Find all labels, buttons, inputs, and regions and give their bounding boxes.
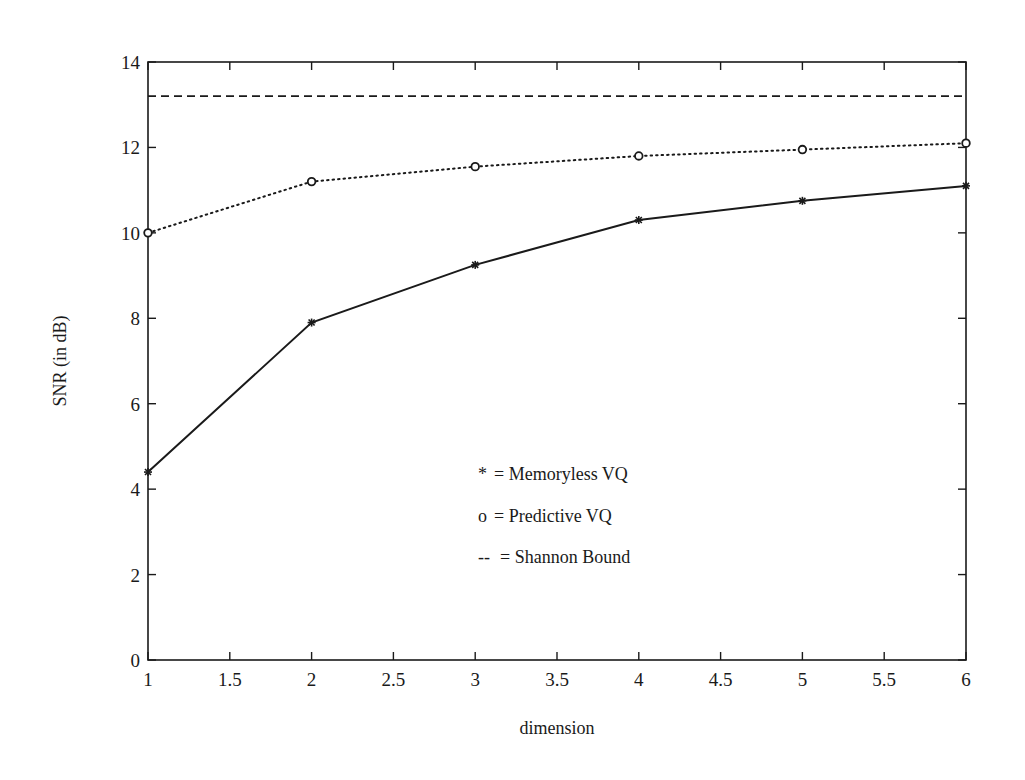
y-tick-label: 4 (131, 479, 141, 500)
x-tick-label: 4.5 (709, 669, 733, 690)
y-tick-label: 14 (121, 52, 141, 73)
x-tick-label: 6 (961, 669, 971, 690)
legend-label-predictive: = Predictive VQ (494, 506, 612, 526)
x-tick-label: 3 (470, 669, 480, 690)
memoryless-vq-line (148, 186, 966, 472)
x-axis-title: dimension (520, 718, 595, 738)
circle-marker (471, 163, 479, 171)
legend-symbol-shannon: -- (478, 547, 490, 567)
x-tick-label: 4 (634, 669, 644, 690)
star-marker (798, 197, 806, 205)
x-tick-label: 5.5 (872, 669, 896, 690)
star-marker (635, 216, 643, 224)
x-tick-label: 2.5 (382, 669, 406, 690)
legend-label-shannon: = Shannon Bound (500, 547, 630, 567)
circle-marker (144, 229, 152, 237)
series-layer (144, 96, 970, 476)
x-axis-ticks: 11.522.533.544.555.56 (143, 62, 971, 690)
x-tick-label: 1.5 (218, 669, 242, 690)
snr-vs-dimension-chart: 11.522.533.544.555.56 02468101214 dimens… (0, 0, 1025, 780)
circle-marker (799, 146, 807, 154)
y-axis-ticks: 02468101214 (121, 52, 966, 671)
star-marker (308, 319, 316, 327)
y-tick-label: 0 (131, 650, 141, 671)
y-tick-label: 12 (121, 137, 140, 158)
x-tick-label: 2 (307, 669, 317, 690)
legend-label-memoryless: = Memoryless VQ (494, 464, 628, 484)
legend: * = Memoryless VQ o = Predictive VQ -- =… (478, 464, 630, 567)
star-marker (144, 468, 152, 476)
x-tick-label: 5 (798, 669, 808, 690)
y-axis-title: SNR (in dB) (50, 315, 71, 406)
y-tick-label: 8 (131, 308, 141, 329)
star-marker (471, 261, 479, 269)
legend-symbol-memoryless: * (478, 464, 487, 484)
y-tick-label: 10 (121, 223, 140, 244)
y-tick-label: 2 (131, 565, 141, 586)
y-tick-label: 6 (131, 394, 141, 415)
x-tick-label: 3.5 (545, 669, 569, 690)
legend-symbol-predictive: o (478, 506, 487, 526)
circle-marker (962, 139, 970, 147)
circle-marker (635, 152, 643, 160)
predictive-vq-line (148, 143, 966, 233)
x-tick-label: 1 (143, 669, 153, 690)
circle-marker (308, 178, 316, 186)
star-marker (962, 182, 970, 190)
